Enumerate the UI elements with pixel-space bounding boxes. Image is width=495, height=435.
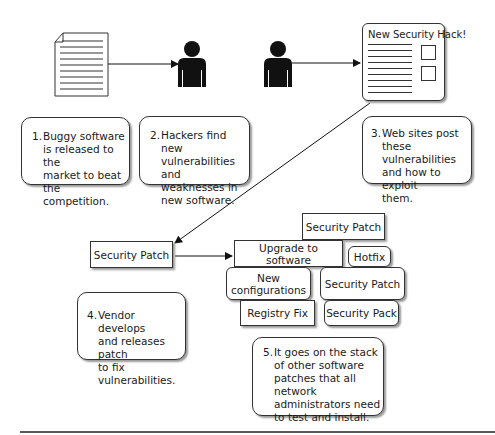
step-1-box: 1. Buggy software is released to the mar… (21, 117, 130, 185)
step-4-text: Vendor develops and releases patch to fi… (87, 309, 185, 387)
step-2-number: 2. (150, 129, 160, 142)
step-5-number: 5. (263, 346, 273, 359)
stack-new-configurations: New configurations (226, 267, 311, 300)
step-4-box: 4. Vendor develops and releases patch to… (77, 292, 186, 360)
image-placeholder-icon (421, 45, 436, 60)
step-2-box: 2. Hackers find new vulnerabilities and … (139, 116, 250, 185)
hacker-person-icon (178, 41, 206, 87)
step-3-box: 3. Web sites post these vulnerabilities … (362, 116, 472, 184)
step-1-text: Buggy software is released to the market… (32, 130, 129, 208)
step-1-number: 1. (32, 130, 42, 143)
stack-hotfix: Hotfix (348, 246, 391, 267)
step-3-text: Web sites post these vulnerabilities and… (371, 127, 471, 205)
security-patch-box: Security Patch (90, 241, 173, 268)
hacker-person-icon-2 (264, 41, 292, 87)
website-text-lines (368, 44, 412, 98)
website-page: New Security Hack! (362, 23, 445, 101)
stack-security-patch-top: Security Patch (302, 213, 385, 240)
document-icon (55, 33, 108, 96)
stack-registry-fix: Registry Fix (240, 300, 315, 326)
step-4-number: 4. (87, 309, 97, 322)
stack-security-patch-mid: Security Patch (320, 267, 405, 300)
step-5-text: It goes on the stack of other software p… (263, 346, 383, 424)
step-3-number: 3. (371, 127, 381, 140)
stack-upgrade-to-software: Upgrade to software (234, 240, 343, 267)
image-placeholder-icon-2 (421, 66, 436, 81)
website-title: New Security Hack! (368, 29, 444, 40)
step-5-box: 5. It goes on the stack of other softwar… (252, 337, 384, 416)
stack-security-pack: Security Pack (324, 300, 399, 326)
step-2-text: Hackers find new vulnerabilities and wea… (150, 129, 249, 207)
